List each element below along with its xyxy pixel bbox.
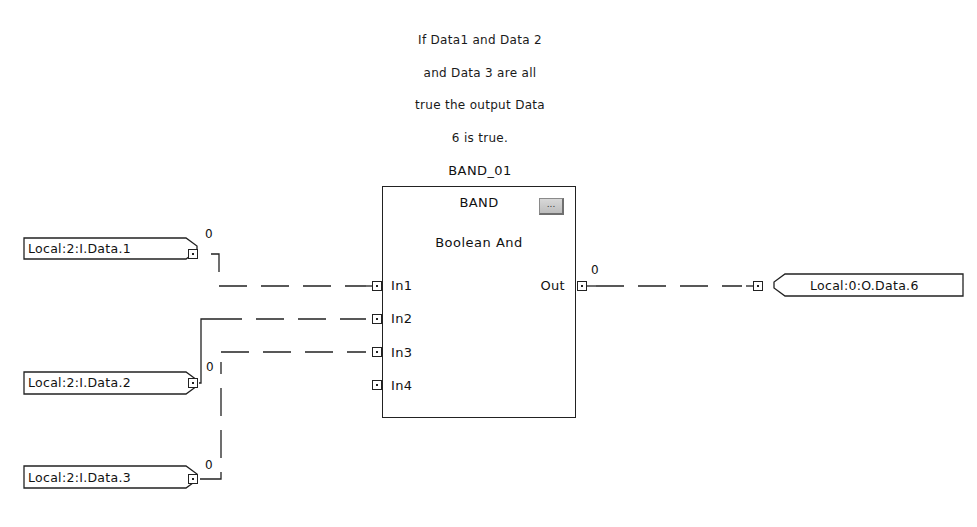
iref-value: 0 bbox=[206, 360, 214, 374]
pin-label-in4: In4 bbox=[391, 378, 412, 393]
output-pin-out-icon[interactable] bbox=[577, 281, 587, 291]
input-pin-in1-icon[interactable] bbox=[372, 281, 382, 291]
iref-pin-icon[interactable] bbox=[188, 474, 198, 484]
iref-tag-label[interactable]: Local:2:I.Data.3 bbox=[28, 470, 131, 485]
pin-label-in2: In2 bbox=[391, 311, 412, 326]
pin-label-in3: In3 bbox=[391, 345, 412, 360]
iref-pin-icon[interactable] bbox=[188, 378, 198, 388]
oref-pin-icon[interactable] bbox=[753, 281, 763, 291]
oref-tag-label[interactable]: Local:0:O.Data.6 bbox=[810, 278, 919, 293]
output-value: 0 bbox=[591, 263, 599, 277]
block-properties-button[interactable]: ... bbox=[539, 198, 564, 215]
band-function-block[interactable]: BAND ... Boolean And In1 In2 In3 In4 Out bbox=[382, 186, 576, 418]
iref-pin-icon[interactable] bbox=[188, 249, 198, 259]
block-description: Boolean And bbox=[383, 235, 575, 250]
wire-1-seg bbox=[211, 254, 219, 272]
iref-tag-label[interactable]: Local:2:I.Data.1 bbox=[28, 241, 131, 256]
iref-value: 0 bbox=[205, 227, 213, 241]
iref-value: 0 bbox=[205, 458, 213, 472]
iref-tag-label[interactable]: Local:2:I.Data.2 bbox=[28, 375, 131, 390]
pin-label-in1: In1 bbox=[391, 278, 412, 293]
input-pin-in3-icon[interactable] bbox=[372, 347, 382, 357]
input-pin-in2-icon[interactable] bbox=[372, 314, 382, 324]
input-pin-in4-icon[interactable] bbox=[372, 380, 382, 390]
pin-label-out: Out bbox=[541, 278, 565, 293]
